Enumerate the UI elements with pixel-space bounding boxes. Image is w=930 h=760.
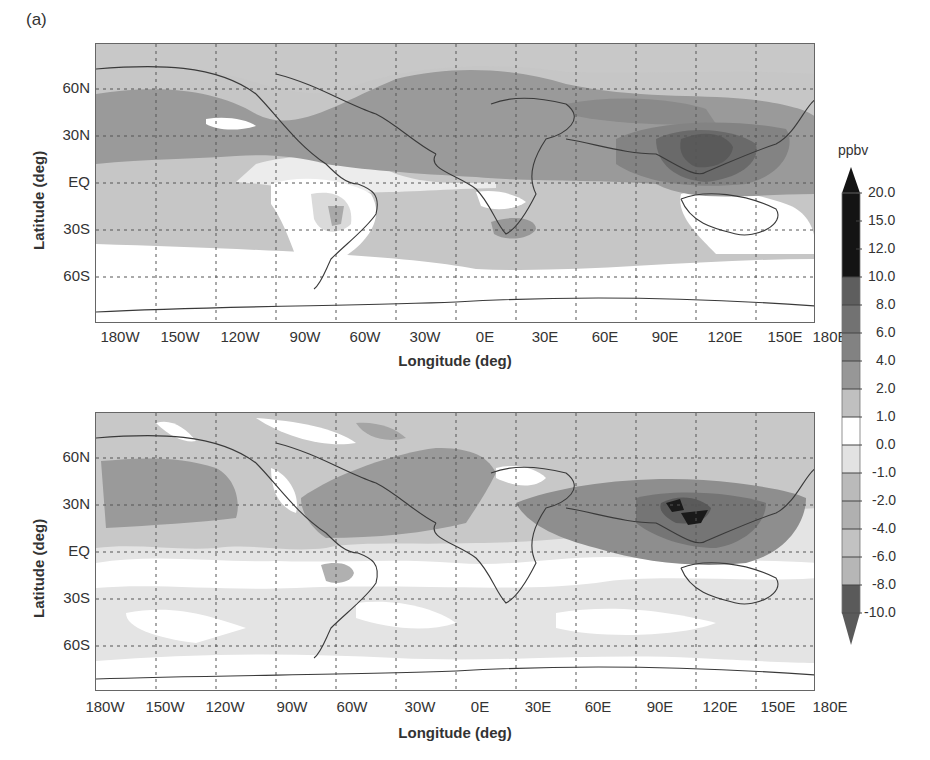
colorbar-tick: 10.0: [868, 268, 928, 284]
colorbar-tick: 6.0: [876, 324, 930, 340]
bottom-map: [95, 412, 815, 691]
xtick: 0E: [455, 328, 515, 345]
top-ylabel: Latitude (deg): [30, 151, 47, 250]
xtick: 60W: [322, 698, 382, 715]
xtick: 60E: [575, 328, 635, 345]
colorbar-tick: 8.0: [876, 296, 930, 312]
xtick: 30E: [515, 328, 575, 345]
xtick: 150E: [748, 698, 808, 715]
xtick: 30E: [508, 698, 568, 715]
xtick: 30W: [390, 698, 450, 715]
xtick: 120E: [695, 328, 755, 345]
colorbar-tick: -1.0: [872, 464, 930, 480]
top-ytick-60n: 60N: [32, 79, 90, 96]
bottom-ytick-60s: 60S: [32, 636, 90, 653]
colorbar-tick: 4.0: [876, 352, 930, 368]
colorbar-tick: -4.0: [872, 520, 930, 536]
xtick: 90E: [630, 698, 690, 715]
colorbar-tick: 15.0: [868, 212, 928, 228]
top-ytick-60s: 60S: [32, 267, 90, 284]
xtick: 120W: [195, 698, 255, 715]
xtick: 90E: [635, 328, 695, 345]
colorbar-lower-arrow: [842, 613, 860, 645]
top-map: [95, 43, 815, 323]
colorbar-tick: -2.0: [872, 492, 930, 508]
colorbar-tick: 1.0: [876, 408, 930, 424]
xtick: 120W: [210, 328, 270, 345]
xtick: 90W: [262, 698, 322, 715]
colorbar-upper-arrow: [842, 167, 860, 193]
bottom-xlabel: Longitude (deg): [95, 724, 815, 741]
colorbar-tick: -8.0: [872, 576, 930, 592]
xtick: 60W: [335, 328, 395, 345]
xtick: 150W: [150, 328, 210, 345]
colorbar-tick: -6.0: [872, 548, 930, 564]
colorbar: [838, 165, 864, 650]
top-map-contours: [96, 44, 815, 323]
xtick: 150W: [135, 698, 195, 715]
xtick: 180W: [90, 328, 150, 345]
colorbar-tick: 2.0: [876, 380, 930, 396]
xtick: 180E: [800, 698, 860, 715]
xtick: 120E: [690, 698, 750, 715]
xtick: 90W: [275, 328, 335, 345]
colorbar-unit: ppbv: [838, 142, 868, 158]
colorbar-tick: 12.0: [868, 240, 928, 256]
colorbar-tick: 0.0: [876, 436, 930, 452]
top-ytick-30n: 30N: [32, 126, 90, 143]
panel-label: (a): [26, 10, 47, 30]
xtick: 0E: [450, 698, 510, 715]
xtick: 60E: [568, 698, 628, 715]
bottom-ytick-60n: 60N: [32, 448, 90, 465]
xtick: 30W: [395, 328, 455, 345]
colorbar-tick: -10.0: [864, 604, 924, 620]
bottom-ylabel: Latitude (deg): [30, 519, 47, 618]
colorbar-tick: 20.0: [868, 184, 928, 200]
bottom-ytick-30n: 30N: [32, 495, 90, 512]
top-xlabel: Longitude (deg): [95, 352, 815, 369]
bottom-map-contours: [96, 413, 815, 691]
xtick: 180W: [75, 698, 135, 715]
